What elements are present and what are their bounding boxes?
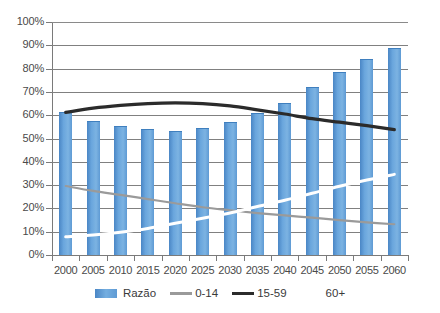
- legend-item[interactable]: 0-14: [170, 287, 218, 299]
- y-axis-label: 40%: [0, 156, 44, 167]
- y-axis-label: 10%: [0, 226, 44, 237]
- legend-swatch-bar-icon: [95, 289, 117, 298]
- x-axis-tick: [326, 255, 327, 261]
- y-axis-label: 70%: [0, 86, 44, 97]
- plot-area: [52, 22, 408, 255]
- y-axis-label: 30%: [0, 179, 44, 190]
- x-axis-tick: [353, 255, 354, 261]
- legend-item-label: 60+: [326, 287, 346, 299]
- x-axis-tick: [298, 255, 299, 261]
- chart-legend: Razão0-1415-5960+: [0, 281, 440, 305]
- legend-item[interactable]: 60+: [301, 287, 346, 299]
- y-axis-label: 20%: [0, 202, 44, 213]
- x-axis-tick: [381, 255, 382, 261]
- x-axis-tick: [244, 255, 245, 261]
- legend-swatch-line-icon: [301, 292, 323, 295]
- y-axis-label: 50%: [0, 133, 44, 144]
- legend-item-label: Razão: [123, 287, 156, 299]
- x-axis-tick: [162, 255, 163, 261]
- line-series-60-: [66, 174, 395, 236]
- x-axis-tick: [52, 255, 53, 261]
- legend-item[interactable]: 15-59: [232, 287, 286, 299]
- x-axis-tick: [216, 255, 217, 261]
- y-axis-label: 90%: [0, 39, 44, 50]
- line-series-overlay: [52, 22, 408, 255]
- x-axis-line: [52, 255, 409, 256]
- x-axis-tick: [271, 255, 272, 261]
- x-axis-tick: [107, 255, 108, 261]
- x-axis-label: 2060: [376, 264, 412, 276]
- legend-item[interactable]: Razão: [95, 287, 156, 299]
- y-axis-label: 60%: [0, 109, 44, 120]
- x-axis-tick: [134, 255, 135, 261]
- x-axis-tick: [189, 255, 190, 261]
- x-axis-tick: [408, 255, 409, 261]
- y-axis-label: 100%: [0, 16, 44, 27]
- y-axis-label: 0%: [0, 249, 44, 260]
- y-axis-label: 80%: [0, 63, 44, 74]
- line-series-15-59: [66, 103, 395, 130]
- x-axis-tick: [79, 255, 80, 261]
- legend-swatch-line-icon: [170, 292, 192, 295]
- legend-swatch-line-icon: [232, 292, 254, 295]
- legend-item-label: 0-14: [195, 287, 218, 299]
- legend-item-label: 15-59: [257, 287, 286, 299]
- line-series-0-14: [66, 186, 395, 224]
- chart-container: 100%90%80%70%60%50%40%30%20%10%0% 200020…: [0, 0, 440, 313]
